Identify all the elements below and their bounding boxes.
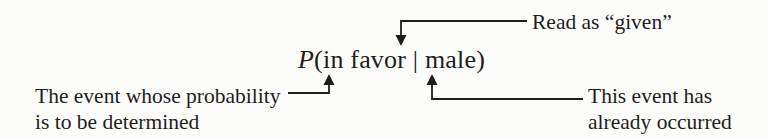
event-determined-annotation: The event whose probability is to be det…: [35, 83, 280, 135]
event-occurred-arrow-line: [432, 84, 583, 99]
conditional-probability-diagram: P(in favor | male) Read as “given” The e…: [0, 0, 768, 139]
conditional-probability-formula: P(in favor | male): [298, 46, 485, 74]
event-occurred-annotation: This event has already occurred: [588, 83, 732, 135]
event-occurred-line2: already occurred: [588, 109, 732, 135]
formula-arguments: (in favor | male): [314, 45, 485, 74]
event-occurred-arrowhead-up-icon: [427, 74, 438, 85]
event-determined-arrowhead-up-icon: [324, 74, 335, 85]
event-determined-line2: is to be determined: [35, 109, 280, 135]
given-annotation: Read as “given”: [532, 9, 672, 35]
event-determined-arrow-line: [288, 84, 329, 93]
probability-symbol: P: [298, 45, 314, 74]
event-occurred-line1: This event has: [588, 83, 732, 109]
event-determined-line1: The event whose probability: [35, 83, 280, 109]
given-arrow-line: [401, 21, 527, 37]
